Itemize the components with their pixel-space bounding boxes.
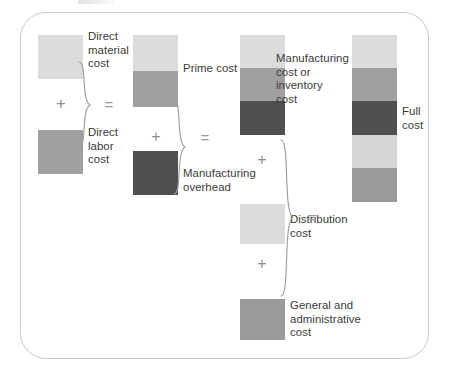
block-full-admin — [352, 168, 397, 202]
label-distribution-cost: Distribution cost — [290, 213, 370, 240]
brace-full — [279, 138, 301, 298]
cropped-caption-sliver — [78, 0, 114, 4]
label-manufacturing-overhead: Manufacturing overhead — [183, 167, 278, 194]
block-full-distribution — [352, 135, 397, 168]
diagram-root: Direct material cost Direct labor cost +… — [0, 0, 451, 375]
label-general-admin-cost: General and administrative cost — [290, 299, 390, 340]
label-full-cost: Full cost — [402, 105, 448, 132]
operator-plus-2: + — [147, 129, 165, 145]
operator-equals-1: = — [100, 97, 118, 113]
block-full-labor — [352, 68, 397, 101]
operator-plus-4: + — [253, 256, 271, 272]
block-prime-material — [133, 35, 178, 71]
block-full-overhead — [352, 101, 397, 135]
operator-plus-3: + — [253, 152, 271, 168]
brace-prime — [77, 60, 97, 150]
brace-manufacturing — [172, 98, 192, 196]
block-general-admin-cost — [240, 299, 285, 340]
block-full-material — [352, 35, 397, 68]
operator-equals-3: = — [303, 210, 321, 226]
operator-plus-1: + — [52, 96, 70, 112]
operator-equals-2: = — [196, 130, 214, 146]
